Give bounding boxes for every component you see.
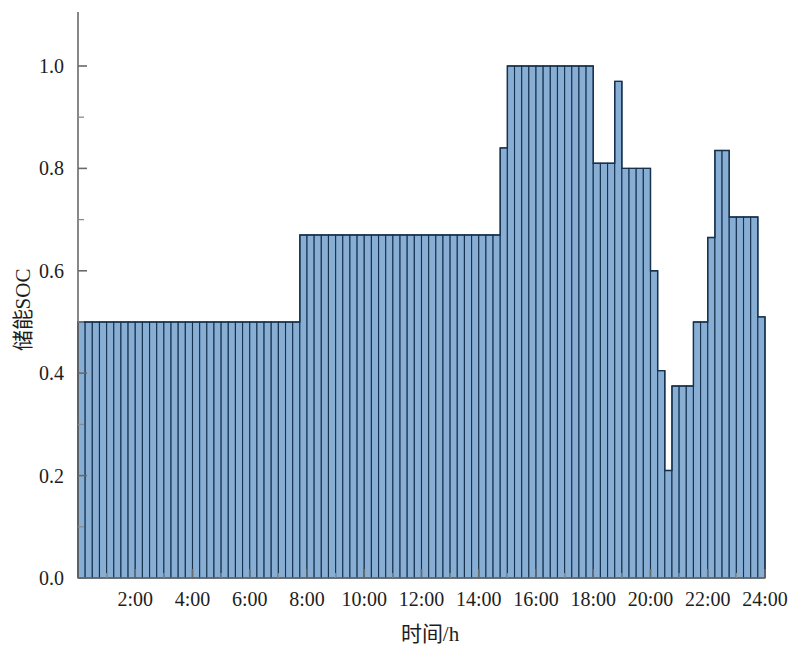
bar (357, 235, 364, 578)
bar (550, 66, 557, 578)
bar (500, 148, 507, 578)
bar (414, 235, 421, 578)
bar (235, 322, 242, 578)
bar (729, 217, 736, 578)
bar (479, 235, 486, 578)
bar (171, 322, 178, 578)
bar (200, 322, 207, 578)
bar (536, 66, 543, 578)
x-tick-label: 22:00 (685, 588, 731, 610)
bar (157, 322, 164, 578)
bar (135, 322, 142, 578)
bar (758, 317, 765, 578)
bar (193, 322, 200, 578)
y-tick-label: 1.0 (39, 55, 64, 77)
x-axis-title: 时间/h (401, 622, 460, 646)
bar (364, 235, 371, 578)
bar (128, 322, 135, 578)
bar (751, 217, 758, 578)
y-tick-labels-group: 0.00.20.40.60.81.0 (39, 55, 64, 589)
bar (464, 235, 471, 578)
bar (643, 168, 650, 578)
y-tick-label: 0.4 (39, 362, 64, 384)
bar (686, 386, 693, 578)
bar (207, 322, 214, 578)
y-tick-label: 0.6 (39, 260, 64, 282)
bar (522, 66, 529, 578)
bar (379, 235, 386, 578)
bar (185, 322, 192, 578)
bar (744, 217, 751, 578)
bar (85, 322, 92, 578)
bar (336, 235, 343, 578)
bar (436, 235, 443, 578)
x-tick-labels-group: 2:004:006:008:0010:0012:0014:0016:0018:0… (117, 588, 787, 610)
bar (400, 235, 407, 578)
bar (92, 322, 99, 578)
x-tick-label: 14:00 (456, 588, 502, 610)
bar (572, 66, 579, 578)
x-tick-label: 20:00 (628, 588, 674, 610)
bars-group (78, 66, 765, 578)
y-tick-label: 0.0 (39, 567, 64, 589)
chart-canvas: 2:004:006:008:0010:0012:0014:0016:0018:0… (0, 0, 795, 660)
bar (321, 235, 328, 578)
x-tick-label: 18:00 (570, 588, 616, 610)
bar (386, 235, 393, 578)
soc-bar-chart: 2:004:006:008:0010:0012:0014:0016:0018:0… (0, 0, 795, 660)
bar (608, 163, 615, 578)
bar (150, 322, 157, 578)
bar (529, 66, 536, 578)
bar (264, 322, 271, 578)
x-tick-label: 2:00 (117, 588, 153, 610)
bar (565, 66, 572, 578)
bar (515, 66, 522, 578)
bar (665, 470, 672, 578)
bar (701, 322, 708, 578)
bar (586, 66, 593, 578)
bar (243, 322, 250, 578)
bar (350, 235, 357, 578)
bar (507, 66, 514, 578)
x-tick-label: 8:00 (289, 588, 325, 610)
bar (107, 322, 114, 578)
x-tick-label: 16:00 (513, 588, 559, 610)
bar (651, 271, 658, 578)
y-axis-title: 储能SOC (11, 269, 35, 352)
bar (622, 168, 629, 578)
bar (679, 386, 686, 578)
x-tick-label: 24:00 (742, 588, 788, 610)
bar (693, 322, 700, 578)
bar (257, 322, 264, 578)
x-tick-label: 10:00 (341, 588, 387, 610)
bar (121, 322, 128, 578)
bar (708, 238, 715, 578)
bar (228, 322, 235, 578)
bar (307, 235, 314, 578)
x-tick-label: 4:00 (175, 588, 211, 610)
bar (672, 386, 679, 578)
bar (407, 235, 414, 578)
bar (164, 322, 171, 578)
bar (736, 217, 743, 578)
bar (371, 235, 378, 578)
bar (278, 322, 285, 578)
bar (715, 150, 722, 578)
bar (450, 235, 457, 578)
bar (493, 235, 500, 578)
bar (178, 322, 185, 578)
bar (250, 322, 257, 578)
bar (557, 66, 564, 578)
bar (221, 322, 228, 578)
bar (300, 235, 307, 578)
bar (593, 163, 600, 578)
bar (293, 322, 300, 578)
bar (629, 168, 636, 578)
bar (579, 66, 586, 578)
bar (314, 235, 321, 578)
bar (615, 81, 622, 578)
bar (600, 163, 607, 578)
bar (99, 322, 106, 578)
bar (142, 322, 149, 578)
bar (343, 235, 350, 578)
